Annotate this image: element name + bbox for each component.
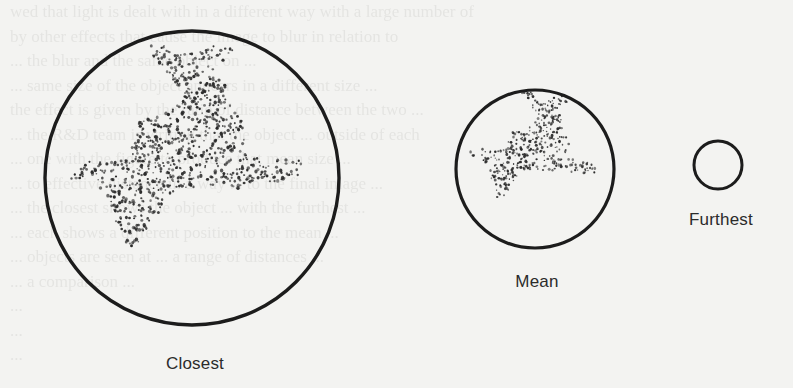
view-furthest (694, 141, 742, 189)
view-mean (456, 90, 614, 248)
circle-furthest (694, 141, 742, 189)
stippled-object-mean (469, 91, 596, 198)
distance-comparison-figure (0, 0, 793, 388)
label-furthest: Furthest (689, 210, 753, 230)
stippled-object-closest (70, 44, 302, 247)
view-closest (45, 31, 339, 325)
label-mean: Mean (515, 272, 558, 292)
label-closest: Closest (166, 354, 224, 374)
